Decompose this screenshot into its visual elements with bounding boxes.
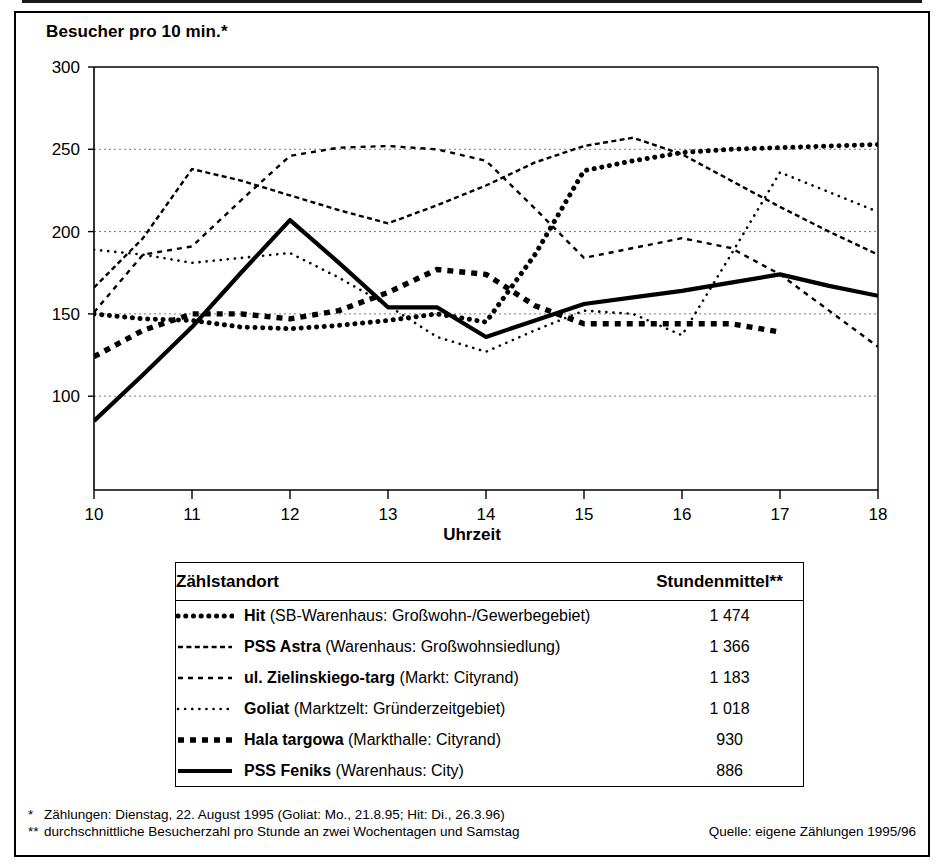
legend-entry-desc: (Warenhaus: City)	[331, 762, 464, 779]
legend-cell-mean: 930	[656, 725, 803, 756]
x-tick-labels: 101112131415161718	[85, 505, 888, 524]
legend-cell-location: PSS Feniks (Warenhaus: City)	[176, 756, 657, 787]
svg-text:15: 15	[575, 505, 594, 524]
x-axis-title: Uhrzeit	[0, 525, 944, 545]
legend-entry-desc: (Markthalle: Cityrand)	[344, 731, 501, 748]
legend-entry: ul. Zielinskiego-targ (Markt: Cityrand)	[176, 669, 656, 687]
footnote-line-1: * Zählungen: Dienstag, 22. August 1995 (…	[28, 806, 916, 823]
legend-entry-label: Goliat (Marktzelt: Gründerzeitgebiet)	[244, 700, 505, 718]
svg-text:12: 12	[281, 505, 300, 524]
svg-text:10: 10	[85, 505, 104, 524]
legend-entry: Goliat (Marktzelt: Gründerzeitgebiet)	[176, 700, 656, 718]
legend-entry-name: PSS Feniks	[244, 762, 331, 779]
legend-cell-location: Goliat (Marktzelt: Gründerzeitgebiet)	[176, 694, 657, 725]
footnote-text-2: durchschnittliche Besucherzahl pro Stund…	[44, 823, 520, 840]
legend-entry-desc: (Warenhaus: Großwohnsiedlung)	[321, 638, 561, 655]
legend-row: PSS Astra (Warenhaus: Großwohnsiedlung)1…	[176, 632, 804, 663]
line-chart-svg: 100150200250300 101112131415161718	[0, 0, 944, 560]
source-note: Quelle: eigene Zählungen 1995/96	[709, 823, 916, 840]
x-tick-marks	[94, 490, 878, 499]
svg-text:300: 300	[52, 58, 80, 77]
legend-entry: PSS Astra (Warenhaus: Großwohnsiedlung)	[176, 638, 656, 656]
legend-entry: PSS Feniks (Warenhaus: City)	[176, 762, 656, 780]
legend-entry-desc: (Markt: Cityrand)	[395, 669, 519, 686]
legend-entry-name: Goliat	[244, 700, 289, 717]
svg-text:14: 14	[477, 505, 496, 524]
svg-text:200: 200	[52, 223, 80, 242]
svg-text:100: 100	[52, 387, 80, 406]
legend-cell-mean: 1 018	[656, 694, 803, 725]
legend-entry-label: PSS Astra (Warenhaus: Großwohnsiedlung)	[244, 638, 560, 656]
legend-entry-label: Hit (SB-Warenhaus: Großwohn-/Gewerbegebi…	[244, 607, 590, 625]
legend-entry-name: Hit	[244, 607, 265, 624]
legend-swatch-solid-icon	[176, 764, 234, 778]
legend-cell-location: Hala targowa (Markthalle: Cityrand)	[176, 725, 657, 756]
svg-text:16: 16	[673, 505, 692, 524]
legend-cell-mean: 1 183	[656, 663, 803, 694]
legend-entry-label: PSS Feniks (Warenhaus: City)	[244, 762, 464, 780]
legend-cell-location: Hit (SB-Warenhaus: Großwohn-/Gewerbegebi…	[176, 601, 657, 632]
series-line	[94, 146, 878, 347]
legend-header-mean: Stundenmittel**	[656, 563, 803, 601]
legend-swatch-backslash-icon	[176, 671, 234, 685]
figure-page: Besucher pro 10 min.* 100150200250300 10…	[0, 0, 944, 868]
legend-entry: Hit (SB-Warenhaus: Großwohn-/Gewerbegebi…	[176, 607, 656, 625]
legend-cell-location: PSS Astra (Warenhaus: Großwohnsiedlung)	[176, 632, 657, 663]
svg-text:18: 18	[869, 505, 888, 524]
legend-entry-name: Hala targowa	[244, 731, 344, 748]
legend-cell-mean: 1 366	[656, 632, 803, 663]
footnote-text-1: Zählungen: Dienstag, 22. August 1995 (Go…	[44, 806, 505, 823]
footnote-line-2: ** durchschnittliche Besucherzahl pro St…	[28, 823, 916, 840]
legend-row: PSS Feniks (Warenhaus: City)886	[176, 756, 804, 787]
series-line	[94, 144, 878, 328]
svg-text:150: 150	[52, 305, 80, 324]
legend-entry-label: ul. Zielinskiego-targ (Markt: Cityrand)	[244, 669, 519, 687]
legend-swatch-dotted-round-icon	[176, 609, 234, 623]
data-series-layer	[94, 138, 878, 421]
legend-entry-desc: (SB-Warenhaus: Großwohn-/Gewerbegebiet)	[265, 607, 590, 624]
footnotes: * Zählungen: Dienstag, 22. August 1995 (…	[28, 806, 916, 840]
svg-text:250: 250	[52, 140, 80, 159]
y-tick-labels: 100150200250300	[52, 58, 80, 406]
legend-header-row: Zählstandort Stundenmittel**	[176, 563, 804, 601]
legend-cell-location: ul. Zielinskiego-targ (Markt: Cityrand)	[176, 663, 657, 694]
legend-entry: Hala targowa (Markthalle: Cityrand)	[176, 731, 656, 749]
gridlines	[88, 67, 878, 396]
legend-row: ul. Zielinskiego-targ (Markt: Cityrand)1…	[176, 663, 804, 694]
svg-text:11: 11	[183, 505, 201, 524]
svg-text:17: 17	[771, 505, 790, 524]
legend-swatch-square-dash-icon	[176, 733, 234, 747]
legend-entry-desc: (Marktzelt: Gründerzeitgebiet)	[289, 700, 505, 717]
legend-row: Hit (SB-Warenhaus: Großwohn-/Gewerbegebi…	[176, 601, 804, 632]
footnote-marker-2: **	[28, 823, 44, 840]
legend-row: Goliat (Marktzelt: Gründerzeitgebiet)1 0…	[176, 694, 804, 725]
series-line	[94, 172, 878, 351]
series-line	[94, 138, 878, 288]
legend-table: Zählstandort Stundenmittel** Hit (SB-War…	[175, 562, 804, 787]
legend-cell-mean: 1 474	[656, 601, 803, 632]
svg-text:13: 13	[379, 505, 398, 524]
legend-swatch-zigzag-icon	[176, 640, 234, 654]
legend-entry-name: PSS Astra	[244, 638, 321, 655]
legend-cell-mean: 886	[656, 756, 803, 787]
legend-header-location: Zählstandort	[176, 563, 657, 601]
footnote-marker-1: *	[28, 806, 44, 823]
legend-entry-name: ul. Zielinskiego-targ	[244, 669, 395, 686]
legend-swatch-fine-dotted-icon	[176, 702, 234, 716]
chart-plot-area: 100150200250300 101112131415161718 Uhrze…	[0, 0, 944, 560]
legend-row: Hala targowa (Markthalle: Cityrand)930	[176, 725, 804, 756]
legend-entry-label: Hala targowa (Markthalle: Cityrand)	[244, 731, 501, 749]
